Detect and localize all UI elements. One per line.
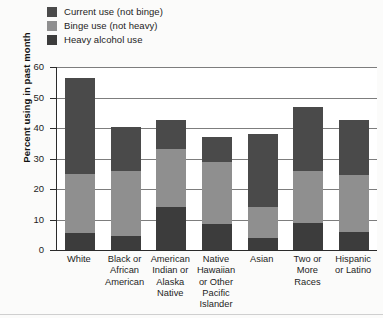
- chart-legend: Current use (not binge) Binge use (not h…: [47, 5, 247, 47]
- y-tick-label-10: 10: [33, 215, 44, 225]
- x-axis-label: Asian: [239, 254, 285, 310]
- x-axis-label-line: Asian: [240, 254, 284, 265]
- x-axis-label-line: Native: [194, 254, 238, 265]
- x-axis-label-line: Hispanic: [331, 254, 375, 265]
- x-axis-label-line: Races: [286, 277, 330, 288]
- bar-slot: [103, 67, 149, 250]
- bar-segment: [111, 236, 141, 250]
- bar-segment: [293, 171, 323, 223]
- y-tick-label-40: 40: [33, 123, 44, 133]
- x-axis-label-line: Alaska: [148, 277, 192, 288]
- bar-segment: [293, 107, 323, 171]
- legend-label-current-use: Current use (not binge): [64, 7, 163, 17]
- x-axis-label: Two orMoreRaces: [285, 254, 331, 310]
- y-tick-label-30: 30: [33, 154, 44, 164]
- bar-segment: [156, 120, 186, 149]
- bar-segment: [65, 174, 95, 233]
- legend-item-binge-use: Binge use (not heavy): [47, 19, 247, 32]
- x-axis-label-line: Black or: [103, 254, 147, 265]
- legend-label-heavy-use: Heavy alcohol use: [64, 35, 142, 45]
- bar-slot: [148, 67, 194, 250]
- x-axis-label-line: American: [148, 254, 192, 265]
- x-axis-label: NativeHawaiianor OtherPacificIslander: [193, 254, 239, 310]
- bar-segment: [202, 224, 232, 250]
- legend-item-heavy-use: Heavy alcohol use: [47, 33, 247, 46]
- bar-segment: [65, 233, 95, 250]
- bar-slot: [331, 67, 377, 250]
- bar-slot: [57, 67, 103, 250]
- y-tick-label-60: 60: [33, 62, 44, 72]
- bar-chart-figure: Current use (not binge) Binge use (not h…: [0, 0, 383, 318]
- y-tick-label-20: 20: [33, 184, 44, 194]
- stacked-bar[interactable]: [111, 127, 141, 251]
- bottom-divider: [0, 314, 383, 315]
- x-axis-label-line: Native: [148, 288, 192, 299]
- x-axis-label-line: More: [286, 265, 330, 276]
- stacked-bar[interactable]: [156, 120, 186, 250]
- bar-slot: [240, 67, 286, 250]
- stacked-bar[interactable]: [248, 134, 278, 250]
- bar-slot: [194, 67, 240, 250]
- x-axis-label-line: Pacific: [194, 288, 238, 299]
- x-axis-label: Hispanicor Latino: [330, 254, 376, 310]
- bar-segment: [339, 232, 369, 250]
- y-axis-title: Percent using in past month: [21, 23, 32, 173]
- x-axis-label-line: White: [57, 254, 101, 265]
- stacked-bar[interactable]: [202, 137, 232, 250]
- x-axis-label: Black orAfricanAmerican: [102, 254, 148, 310]
- bar-group: [57, 67, 377, 250]
- y-tick-label-50: 50: [33, 93, 44, 103]
- bar-segment: [202, 162, 232, 225]
- bar-segment: [111, 171, 141, 237]
- bar-segment: [248, 238, 278, 250]
- bar-segment: [156, 207, 186, 250]
- x-axis-label-line: American: [103, 277, 147, 288]
- stacked-bar[interactable]: [65, 78, 95, 250]
- x-axis-label-line: or Latino: [331, 265, 375, 276]
- x-axis-labels: WhiteBlack orAfricanAmericanAmericanIndi…: [56, 254, 376, 310]
- x-axis-label: White: [56, 254, 102, 310]
- x-axis-label-line: Two or: [286, 254, 330, 265]
- stacked-bar[interactable]: [293, 107, 323, 250]
- x-axis-label-line: Hawaiian: [194, 265, 238, 276]
- y-tick-label-0: 0: [39, 245, 44, 255]
- bar-segment: [293, 223, 323, 250]
- bar-segment: [202, 137, 232, 161]
- stacked-bar[interactable]: [339, 120, 369, 250]
- x-axis-label-line: Indian or: [148, 265, 192, 276]
- bar-segment: [111, 127, 141, 171]
- plot-area: [56, 67, 377, 251]
- bar-segment: [339, 175, 369, 231]
- bar-segment: [339, 120, 369, 175]
- legend-item-current-use: Current use (not binge): [47, 5, 247, 18]
- x-axis-label-line: Islander: [194, 299, 238, 310]
- legend-label-binge-use: Binge use (not heavy): [64, 21, 157, 31]
- bar-segment: [248, 134, 278, 207]
- x-axis-label: AmericanIndian orAlaskaNative: [147, 254, 193, 310]
- x-axis-label-line: African: [103, 265, 147, 276]
- x-axis-label-line: or Other: [194, 277, 238, 288]
- bar-segment: [248, 207, 278, 238]
- bar-segment: [156, 149, 186, 207]
- bar-slot: [286, 67, 332, 250]
- bar-segment: [65, 78, 95, 174]
